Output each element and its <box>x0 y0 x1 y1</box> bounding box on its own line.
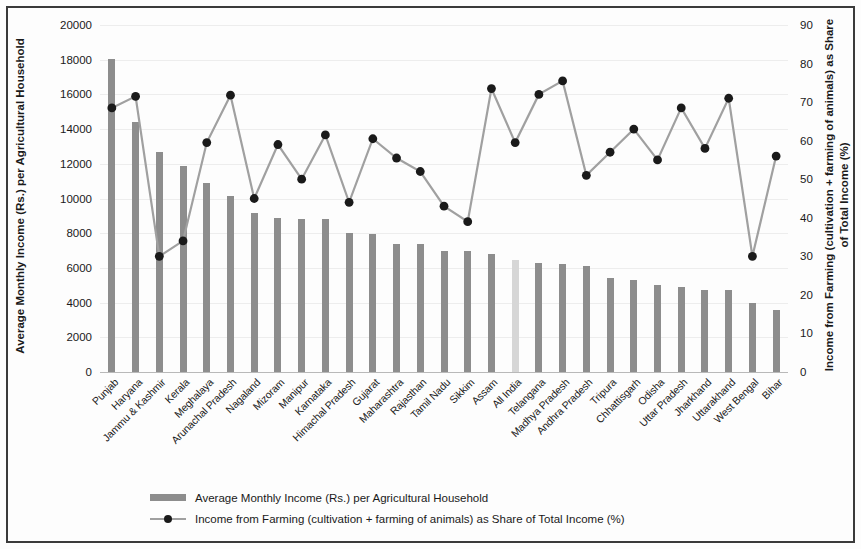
y-tick-label-right: 90 <box>800 19 826 31</box>
line-marker <box>440 202 449 211</box>
y-tick-label-left: 0 <box>44 366 92 378</box>
legend-label-bar: Average Monthly Income (Rs.) per Agricul… <box>195 492 488 504</box>
y-tick-label-right: 40 <box>800 212 826 224</box>
line-marker <box>297 175 306 184</box>
y-tick-label-right: 70 <box>800 96 826 108</box>
legend-item-line: Income from Farming (cultivation + farmi… <box>150 508 770 529</box>
y-tick-label-right: 20 <box>800 289 826 301</box>
chart-legend: Average Monthly Income (Rs.) per Agricul… <box>150 487 770 529</box>
y-tick-label-right: 50 <box>800 173 826 185</box>
y-tick-label-right: 30 <box>800 250 826 262</box>
line-marker <box>629 125 638 134</box>
line-marker <box>226 91 235 100</box>
line-marker <box>558 77 567 86</box>
y-tick-label-left: 14000 <box>44 123 92 135</box>
y-tick-label-right: 80 <box>800 58 826 70</box>
y-tick-label-right: 60 <box>800 135 826 147</box>
y-tick-label-left: 16000 <box>44 88 92 100</box>
line-marker <box>487 84 496 93</box>
line-marker <box>535 90 544 99</box>
y-axis-title-left: Average Monthly Income (Rs.) per Agricul… <box>8 18 32 374</box>
line-marker <box>202 138 211 147</box>
page-border-top <box>6 6 855 8</box>
line-marker <box>392 154 401 163</box>
line-marker <box>677 103 686 112</box>
line-marker <box>107 103 116 112</box>
y-tick-label-left: 2000 <box>44 331 92 343</box>
plot-area: 0200040006000800010000120001400016000180… <box>100 25 788 372</box>
x-axis-category-labels: PunjabHaryanaJammu & KashmirKeralaMeghal… <box>100 376 788 476</box>
line-marker <box>724 94 733 103</box>
y-axis-title-right-text: Income from Farming (cultivation + farmi… <box>822 14 852 376</box>
y-tick-label-right: 0 <box>800 366 826 378</box>
y-tick-label-left: 12000 <box>44 158 92 170</box>
line-marker <box>582 171 591 180</box>
line-marker <box>416 167 425 176</box>
line-marker <box>748 252 757 261</box>
line-marker <box>368 134 377 143</box>
line-marker <box>701 144 710 153</box>
y-tick-label-left: 8000 <box>44 227 92 239</box>
line-path <box>112 81 776 256</box>
y-tick-label-left: 6000 <box>44 262 92 274</box>
line-marker <box>250 194 259 203</box>
page-border-bottom <box>6 541 855 543</box>
line-marker <box>606 148 615 157</box>
line-marker <box>345 198 354 207</box>
line-point-swatch-icon <box>150 514 186 524</box>
chart-page: Average Monthly Income (Rs.) per Agricul… <box>0 0 861 549</box>
line-marker <box>274 140 283 149</box>
line-series <box>100 25 788 372</box>
y-tick-label-left: 10000 <box>44 193 92 205</box>
y-tick-label-left: 4000 <box>44 297 92 309</box>
line-marker <box>179 237 188 246</box>
line-markers <box>107 77 780 261</box>
y-tick-label-left: 20000 <box>44 19 92 31</box>
line-marker <box>772 152 781 161</box>
line-marker <box>653 156 662 165</box>
bar-swatch-icon <box>150 494 186 501</box>
y-tick-label-left: 18000 <box>44 54 92 66</box>
legend-label-line: Income from Farming (cultivation + farmi… <box>195 513 625 525</box>
line-marker <box>511 138 520 147</box>
line-marker <box>155 252 164 261</box>
legend-item-bar: Average Monthly Income (Rs.) per Agricul… <box>150 487 770 508</box>
line-marker <box>131 92 140 101</box>
y-tick-label-right: 10 <box>800 327 826 339</box>
y-axis-title-left-text: Average Monthly Income (Rs.) per Agricul… <box>14 38 26 353</box>
line-marker <box>321 130 330 139</box>
line-marker <box>463 217 472 226</box>
